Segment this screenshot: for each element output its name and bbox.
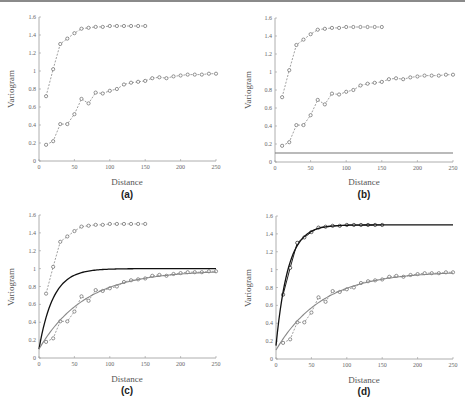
panel-label: (d) bbox=[358, 386, 371, 397]
upper-empirical-point bbox=[108, 222, 111, 225]
y-tick-label: 0.8 bbox=[266, 285, 274, 291]
upper-empirical-point bbox=[122, 222, 125, 225]
x-tick-label: 150 bbox=[377, 165, 386, 171]
model-black-curve bbox=[39, 269, 216, 349]
lower-empirical-point bbox=[73, 113, 76, 116]
lower-empirical-point bbox=[373, 81, 376, 84]
lower-empirical-point bbox=[437, 74, 440, 77]
lower-empirical-point bbox=[288, 141, 291, 144]
lower-empirical-point bbox=[289, 338, 292, 341]
x-tick-label: 200 bbox=[413, 165, 422, 171]
upper-empirical-point bbox=[59, 240, 62, 243]
upper-empirical-point bbox=[366, 25, 369, 28]
upper-empirical-point bbox=[52, 68, 55, 71]
upper-empirical-point bbox=[44, 95, 47, 98]
lower-empirical-point bbox=[366, 82, 369, 85]
upper-empirical-point bbox=[330, 26, 333, 29]
y-tick-label: 0.2 bbox=[29, 140, 37, 146]
y-tick-label: 1.2 bbox=[29, 248, 37, 254]
y-tick-label: 0 bbox=[269, 159, 272, 165]
upper-empirical-point bbox=[87, 224, 90, 227]
model-black-curve bbox=[276, 225, 453, 346]
upper-empirical-point bbox=[281, 96, 284, 99]
lower-empirical-point bbox=[200, 73, 203, 76]
upper-empirical-point bbox=[122, 24, 125, 27]
y-tick-label: 0.2 bbox=[29, 337, 37, 343]
lower-empirical-point bbox=[52, 140, 55, 143]
lower-empirical-point bbox=[94, 91, 97, 94]
upper-empirical-point bbox=[129, 24, 132, 27]
y-tick-label: 0.2 bbox=[265, 141, 273, 147]
upper-empirical-point bbox=[80, 27, 83, 30]
lower-empirical-point bbox=[281, 341, 284, 344]
lower-empirical-point bbox=[73, 310, 76, 313]
x-tick-label: 150 bbox=[141, 361, 150, 367]
lower-empirical-point bbox=[331, 289, 334, 292]
upper-empirical-point bbox=[302, 38, 305, 41]
lower-empirical-point bbox=[101, 92, 104, 95]
x-tick-label: 0 bbox=[274, 165, 277, 171]
y-tick-label: 0.8 bbox=[29, 284, 37, 290]
upper-empirical-point bbox=[66, 37, 69, 40]
panel-label: (a) bbox=[121, 189, 133, 200]
y-tick-label: 1.2 bbox=[29, 50, 37, 56]
upper-empirical-point bbox=[144, 24, 147, 27]
lower-empirical-point bbox=[122, 83, 125, 86]
lower-empirical-point bbox=[52, 337, 55, 340]
x-tick-label: 150 bbox=[141, 164, 150, 170]
lower-empirical-point bbox=[186, 73, 189, 76]
upper-empirical-point bbox=[52, 265, 55, 268]
upper-empirical-point bbox=[101, 25, 104, 28]
x-axis-label: Distance bbox=[348, 177, 380, 187]
lower-empirical-point bbox=[144, 79, 147, 82]
upper-empirical-point bbox=[87, 26, 90, 29]
y-tick-label: 0.6 bbox=[29, 104, 37, 110]
x-tick-label: 100 bbox=[105, 164, 114, 170]
upper-empirical-line bbox=[283, 225, 382, 295]
model-gray-curve bbox=[276, 273, 453, 350]
panel-d: 05010015020025000.20.40.60.811.21.41.6Di… bbox=[243, 213, 458, 397]
lower-empirical-point bbox=[444, 73, 447, 76]
x-tick-label: 200 bbox=[413, 362, 422, 368]
lower-empirical-point bbox=[380, 80, 383, 83]
upper-empirical-point bbox=[80, 225, 83, 228]
lower-empirical-point bbox=[345, 90, 348, 93]
upper-empirical-point bbox=[373, 25, 376, 28]
y-axis-label: Variogram bbox=[6, 268, 16, 306]
upper-empirical-point bbox=[144, 222, 147, 225]
lower-empirical-point bbox=[416, 75, 419, 78]
x-tick-label: 200 bbox=[176, 164, 185, 170]
y-tick-label: 0.8 bbox=[265, 87, 273, 93]
y-tick-label: 1 bbox=[33, 266, 36, 272]
y-tick-label: 1.6 bbox=[265, 15, 273, 21]
x-axis-label: Distance bbox=[348, 375, 380, 385]
lower-empirical-point bbox=[172, 75, 175, 78]
y-tick-label: 0.4 bbox=[265, 123, 273, 129]
lower-empirical-point bbox=[179, 74, 182, 77]
x-tick-label: 50 bbox=[71, 164, 77, 170]
lower-empirical-point bbox=[423, 74, 426, 77]
lower-empirical-point bbox=[115, 87, 118, 90]
upper-empirical-point bbox=[101, 223, 104, 226]
y-axis-label: Variogram bbox=[6, 70, 16, 108]
upper-empirical-point bbox=[137, 24, 140, 27]
upper-empirical-point bbox=[295, 43, 298, 46]
lower-empirical-point bbox=[451, 73, 454, 76]
x-tick-label: 250 bbox=[449, 165, 458, 171]
x-tick-label: 0 bbox=[38, 164, 41, 170]
y-tick-label: 1.6 bbox=[266, 213, 274, 219]
upper-empirical-point bbox=[129, 222, 132, 225]
panel-c: 05010015020025000.20.40.60.811.21.41.6Di… bbox=[6, 212, 221, 396]
lower-empirical-point bbox=[44, 143, 47, 146]
lower-empirical-point bbox=[137, 80, 140, 83]
lower-empirical-point bbox=[394, 77, 397, 80]
y-tick-label: 0 bbox=[270, 356, 273, 362]
lower-empirical-point bbox=[66, 123, 69, 126]
lower-empirical-point bbox=[430, 74, 433, 77]
lower-empirical-point bbox=[80, 295, 83, 298]
panel-b: 05010015020025000.20.40.60.811.21.41.6Di… bbox=[243, 15, 458, 200]
upper-empirical-point bbox=[73, 32, 76, 35]
x-tick-label: 50 bbox=[308, 362, 314, 368]
lower-empirical-point bbox=[129, 81, 132, 84]
upper-empirical-point bbox=[309, 33, 312, 36]
